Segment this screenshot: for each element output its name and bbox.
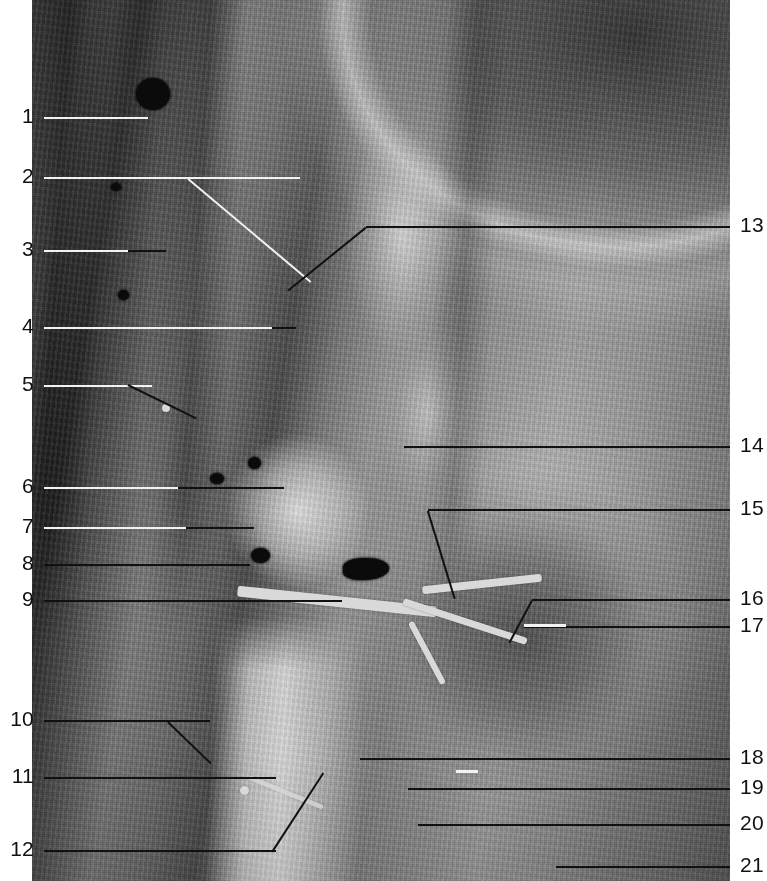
- label-3: 3: [0, 238, 34, 259]
- vessel-lumen: [111, 183, 121, 191]
- label-1: 1: [0, 105, 34, 126]
- leader-line-15: [428, 509, 730, 511]
- vessel-lumen: [136, 78, 170, 110]
- leader-line-8: [44, 564, 250, 566]
- label-6: 6: [0, 475, 34, 496]
- label-19: 19: [740, 776, 764, 797]
- label-14: 14: [740, 434, 764, 455]
- leader-line-4: [44, 327, 276, 329]
- leader-line-16: [532, 599, 730, 601]
- leader-line-18: [360, 758, 730, 760]
- vessel-lumen: [118, 290, 129, 300]
- label-16: 16: [740, 587, 764, 608]
- label-5: 5: [0, 373, 34, 394]
- label-8: 8: [0, 552, 34, 573]
- leader-line-14: [404, 446, 730, 448]
- leader-line-4-extension: [272, 327, 296, 329]
- label-10: 10: [0, 708, 34, 729]
- label-4: 4: [0, 315, 34, 336]
- leader-line-9: [44, 600, 342, 602]
- label-9: 9: [0, 588, 34, 609]
- leader-line-21: [556, 866, 730, 868]
- photo-vignette: [32, 0, 730, 881]
- vessel-lumen: [251, 548, 270, 563]
- leader-line-13: [366, 226, 730, 228]
- leader-line-17-tip: [524, 624, 566, 627]
- leader-line-19: [408, 788, 730, 790]
- leader-line-1: [44, 117, 148, 119]
- label-11: 11: [0, 765, 34, 786]
- label-13: 13: [740, 214, 764, 235]
- leader-line-6: [44, 487, 182, 489]
- label-21: 21: [740, 854, 764, 875]
- pin-head: [240, 786, 249, 795]
- anatomical-figure: 1 2 3 4 5 6 7 8 9 10 11 12 13 14 15 16 1…: [0, 0, 767, 881]
- label-7: 7: [0, 515, 34, 536]
- leader-line-7: [44, 527, 190, 529]
- leader-line-3-extension: [128, 250, 166, 252]
- label-12: 12: [0, 838, 34, 859]
- leader-line-3: [44, 250, 132, 252]
- vessel-lumen: [248, 457, 261, 469]
- label-18: 18: [740, 746, 764, 767]
- leader-line-19-tip: [456, 770, 478, 773]
- dissection-photograph: [32, 0, 730, 881]
- label-2: 2: [0, 165, 34, 186]
- leader-line-20: [418, 824, 730, 826]
- label-20: 20: [740, 812, 764, 833]
- vessel-lumen: [210, 473, 224, 484]
- leader-line-10: [44, 720, 210, 722]
- label-17: 17: [740, 614, 764, 635]
- label-15: 15: [740, 497, 764, 518]
- leader-line-11: [44, 777, 276, 779]
- leader-line-6-extension: [178, 487, 284, 489]
- leader-line-12: [44, 850, 276, 852]
- leader-line-2: [44, 177, 300, 179]
- leader-line-7-extension: [186, 527, 254, 529]
